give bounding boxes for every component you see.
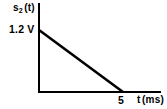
x-axis-unit: (ms) bbox=[142, 94, 164, 105]
y-axis-value-label: 1.2 V bbox=[9, 24, 35, 35]
x-axis-variable: t bbox=[137, 94, 141, 105]
y-axis-label: s2(t) bbox=[13, 3, 35, 14]
signal-waveform-figure: s2(t) 1.2 V 5 t(ms) bbox=[0, 0, 167, 109]
x-axis-tick-label-5: 5 bbox=[118, 95, 124, 106]
y-axis-subscript: 2 bbox=[19, 7, 23, 14]
y-axis-argument: (t) bbox=[24, 2, 35, 13]
waveform-ramp-line bbox=[39, 30, 123, 92]
plot-area bbox=[0, 0, 167, 109]
x-axis-label: t(ms) bbox=[137, 95, 164, 105]
